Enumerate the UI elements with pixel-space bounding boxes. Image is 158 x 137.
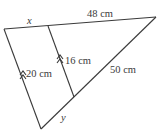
triangle-diagram: x 48 cm 20 cm 16 cm 50 cm y [0,0,158,137]
left-side [4,29,41,129]
label-y: y [60,112,66,123]
label-16cm: 16 cm [65,55,91,66]
diagram-svg: x 48 cm 20 cm 16 cm 50 cm y [0,0,158,137]
label-20cm: 20 cm [26,68,52,79]
label-50cm: 50 cm [110,64,136,75]
hypotenuse [41,17,156,129]
parallel-arrow-icon [57,55,63,63]
label-x: x [26,15,32,26]
label-48cm: 48 cm [87,8,113,19]
